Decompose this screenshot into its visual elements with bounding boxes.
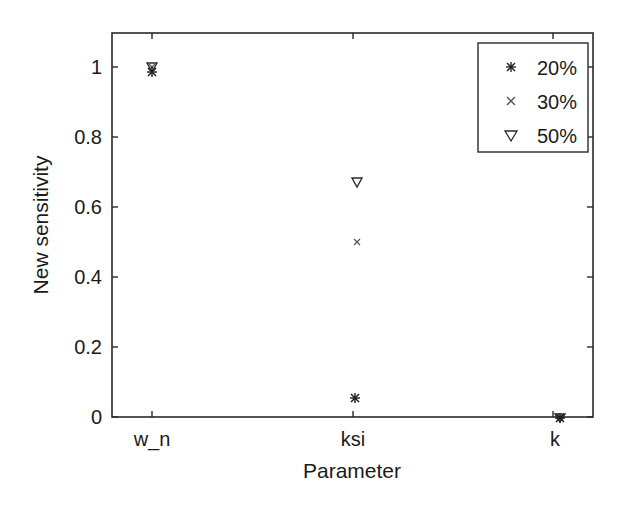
legend-label: 50% <box>537 125 577 147</box>
asterisk-icon <box>506 62 516 72</box>
y-tick-label: 0.2 <box>74 336 102 358</box>
legend-label: 30% <box>537 91 577 113</box>
legend-label: 20% <box>537 57 577 79</box>
scatter-chart: 0 0.2 0.4 0.6 0.8 1 w_n ksi k Parameter … <box>0 0 634 512</box>
asterisk-icon <box>350 393 360 403</box>
x-tick-label: k <box>550 428 561 450</box>
y-tick-label: 0.4 <box>74 266 102 288</box>
y-tick-label: 0 <box>91 406 102 428</box>
asterisk-icon <box>147 67 157 77</box>
triangle-down-icon <box>352 178 362 187</box>
x-axis-label: Parameter <box>303 459 401 482</box>
y-tick-label: 0.6 <box>74 196 102 218</box>
y-axis-label: New sensitivity <box>29 155 52 294</box>
asterisk-icon <box>555 413 565 423</box>
legend: 20% 30% 50% <box>478 43 588 152</box>
x-tick-label: w_n <box>133 428 171 451</box>
x-tick-label: ksi <box>341 428 365 450</box>
x-icon <box>354 239 360 245</box>
y-tick-label: 0.8 <box>74 126 102 148</box>
y-tick-label: 1 <box>91 56 102 78</box>
